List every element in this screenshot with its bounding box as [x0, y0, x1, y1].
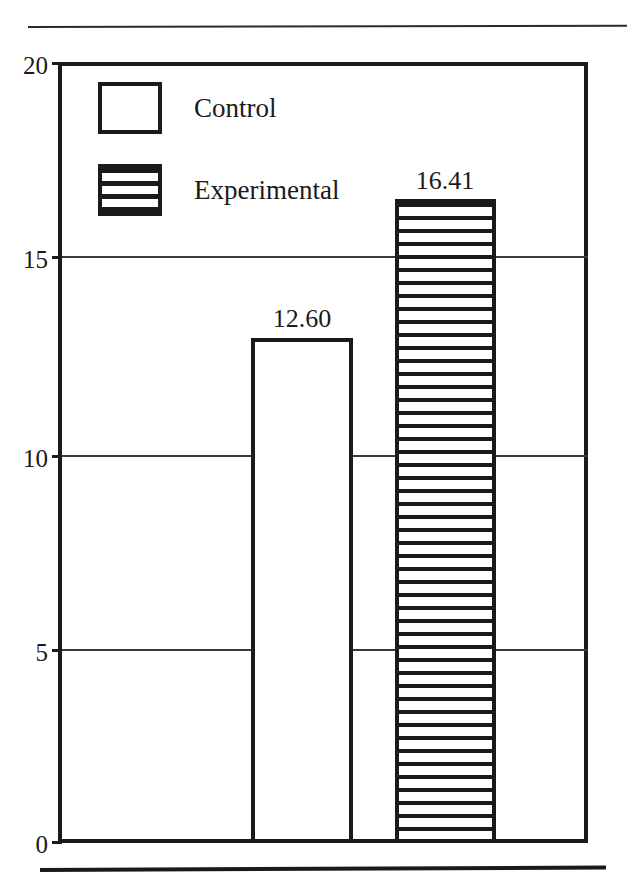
ytick-label-20: 20 [0, 53, 56, 78]
ytick-label-10: 10 [0, 446, 56, 471]
legend-label-control: Control [194, 95, 277, 122]
chart-legend: Control Experimental [98, 80, 339, 244]
bar-experimental[interactable] [395, 199, 496, 843]
ytick-label-5: 5 [0, 640, 56, 665]
legend-label-experimental: Experimental [194, 177, 339, 204]
bar-control[interactable] [251, 338, 353, 843]
gridline-15 [58, 256, 588, 258]
legend-entry-experimental[interactable]: Experimental [98, 162, 339, 218]
bar-chart: 20 15 10 5 0 12.60 16.41 Control Experim… [0, 0, 627, 888]
legend-swatch-control-icon [98, 82, 162, 134]
ytick-label-0: 0 [0, 832, 56, 857]
legend-swatch-experimental-icon [98, 164, 162, 216]
legend-entry-control[interactable]: Control [98, 80, 339, 136]
bar-label-control: 12.60 [232, 306, 372, 332]
figure-page: 20 15 10 5 0 12.60 16.41 Control Experim… [0, 0, 627, 888]
ytick-label-15: 15 [0, 247, 56, 272]
bar-label-experimental: 16.41 [375, 168, 515, 194]
